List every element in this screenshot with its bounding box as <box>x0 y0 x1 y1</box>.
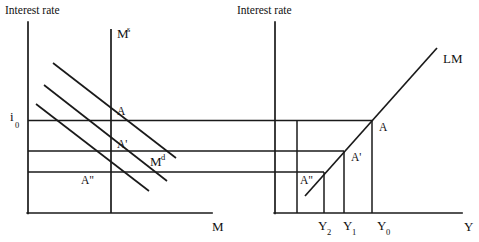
i0-base: i <box>10 109 14 124</box>
point-label-a-left: A <box>117 105 126 117</box>
x-tick-y0: Y 0 <box>377 218 390 237</box>
economics-diagram-canvas: Interest rate M M s M d i 0 A A' A" <box>0 0 479 242</box>
right-x-axis-label: Y <box>464 219 474 234</box>
i0-subscript: 0 <box>15 120 19 130</box>
money-supply-label: M s <box>117 24 130 41</box>
left-x-axis-label: M <box>212 219 224 234</box>
left-y-axis-label: Interest rate <box>5 4 60 16</box>
point-label-a-right: A <box>379 121 388 133</box>
ms-superscript: s <box>127 24 130 34</box>
md-superscript: d <box>161 152 166 162</box>
money-demand-label: M d <box>150 152 166 169</box>
lm-curve <box>305 48 437 196</box>
money-demand-curve-high <box>53 63 176 158</box>
point-label-a-prime-left: A' <box>117 138 127 150</box>
i0-tick-label: i 0 <box>10 109 19 130</box>
point-label-a-prime-right: A' <box>351 151 361 163</box>
lm-curve-label: LM <box>443 51 463 66</box>
y0-subscript: 0 <box>386 227 390 237</box>
y1-subscript: 1 <box>352 227 356 237</box>
x-tick-y2: Y 2 <box>318 218 331 237</box>
point-label-a-double-prime-left: A" <box>81 174 94 186</box>
point-label-a-double-prime-right: A" <box>300 174 313 186</box>
right-y-axis-label: Interest rate <box>237 4 292 16</box>
money-demand-curve-mid <box>44 85 167 181</box>
y2-subscript: 2 <box>327 227 331 237</box>
x-tick-y1: Y 1 <box>343 218 356 237</box>
money-market-panel: Interest rate M M s M d i 0 A A' A" <box>5 4 372 234</box>
